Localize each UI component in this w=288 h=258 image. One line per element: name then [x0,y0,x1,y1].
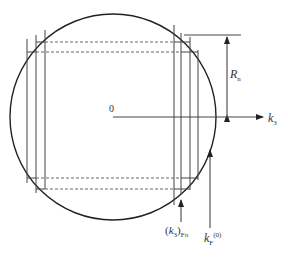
origin-text: 0 [109,103,114,114]
k3fn-n-subscript: n [185,231,189,239]
cylinder-end-ticks [27,42,198,189]
kf-zero-label: kF(0) [204,232,221,244]
dashed-level-lines [36,42,181,189]
radius-rn-label: Rn [230,68,241,80]
origin-label: 0 [109,104,114,114]
rn-subscript: n [237,75,241,83]
k3-subscript: 3 [273,119,277,127]
k3-axis-label: k3 [268,112,277,124]
kf0-subscript: F [209,239,213,247]
fermi-sphere-diagram [0,0,288,258]
left-landau-lines [27,30,45,193]
kf0-superscript: (0) [213,231,221,239]
k3-fermi-n-label: (k3)Fn [165,225,188,236]
